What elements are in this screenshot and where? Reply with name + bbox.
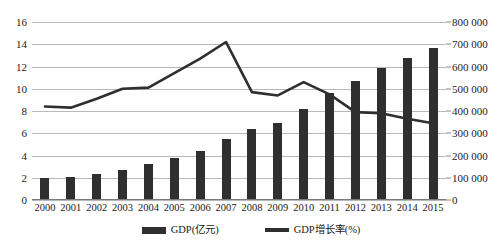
right-axis-tick-mark xyxy=(446,88,451,89)
left-axis-tick: 6 xyxy=(22,128,28,139)
right-axis-tick: 500 000 xyxy=(452,83,488,94)
right-axis-tick-mark xyxy=(446,66,451,67)
right-axis-tick: 400 000 xyxy=(452,106,488,117)
legend-item-gdp[interactable]: GDP(亿元) xyxy=(142,224,219,236)
left-axis-tick: 14 xyxy=(16,39,27,50)
right-axis-tick-mark xyxy=(446,44,451,45)
x-axis-tick-label: 2015 xyxy=(423,202,444,214)
x-axis-tick-label: 2011 xyxy=(319,202,340,214)
left-axis-tick: 10 xyxy=(16,83,27,94)
x-axis-tick-label: 2008 xyxy=(241,202,262,214)
right-axis-tick: 100 000 xyxy=(452,172,488,183)
right-axis-tick-mark xyxy=(446,177,451,178)
chart-legend: GDP(亿元) GDP增长率(%) xyxy=(0,224,502,236)
legend-item-growth-rate[interactable]: GDP增长率(%) xyxy=(265,224,361,236)
legend-label-gdp: GDP(亿元) xyxy=(171,224,219,236)
right-axis-tick: 600 000 xyxy=(452,61,488,72)
x-axis-tick-label: 2000 xyxy=(34,202,55,214)
x-axis-labels: 2000200120022003200420052006200720082009… xyxy=(32,202,446,216)
right-axis-tick: 300 000 xyxy=(452,128,488,139)
right-axis-tick-mark xyxy=(446,200,451,201)
left-axis-tick: 16 xyxy=(16,17,27,28)
x-axis-tick-label: 2003 xyxy=(112,202,133,214)
right-axis-tick: 200 000 xyxy=(452,150,488,161)
left-axis-tick: 12 xyxy=(16,61,27,72)
x-axis-tick-label: 2009 xyxy=(267,202,288,214)
left-axis-tick: 2 xyxy=(22,172,28,183)
gridline xyxy=(32,200,446,201)
left-axis-tick: 4 xyxy=(22,150,28,161)
x-axis-tick-label: 2006 xyxy=(190,202,211,214)
x-axis-tick-label: 2001 xyxy=(60,202,81,214)
line-swatch-icon xyxy=(265,228,289,232)
left-axis-tick: 8 xyxy=(22,106,28,117)
bar-swatch-icon xyxy=(142,227,166,234)
x-axis-tick-label: 2004 xyxy=(138,202,159,214)
left-axis-tick: 0 xyxy=(22,195,28,206)
right-axis-tick-mark xyxy=(446,155,451,156)
x-axis-tick-label: 2005 xyxy=(164,202,185,214)
right-axis-tick: 800 000 xyxy=(452,17,488,28)
right-axis-tick-mark xyxy=(446,22,451,23)
x-axis-tick-label: 2002 xyxy=(86,202,107,214)
x-axis-tick-label: 2014 xyxy=(397,202,418,214)
x-axis-tick-label: 2013 xyxy=(371,202,392,214)
right-axis-tick: 0 xyxy=(452,195,458,206)
x-axis-tick-label: 2007 xyxy=(216,202,237,214)
right-axis-tick: 700 000 xyxy=(452,39,488,50)
x-axis-tick-label: 2012 xyxy=(345,202,366,214)
x-axis-tick-label: 2010 xyxy=(293,202,314,214)
right-axis-tick-mark xyxy=(446,133,451,134)
legend-label-growth-rate: GDP增长率(%) xyxy=(294,224,361,236)
gdp-combo-chart: 0246810121416 0100 000200 000300 000400 … xyxy=(0,0,502,251)
right-axis-tick-mark xyxy=(446,111,451,112)
right-axis: 0100 000200 000300 000400 000500 000600 … xyxy=(32,22,446,200)
